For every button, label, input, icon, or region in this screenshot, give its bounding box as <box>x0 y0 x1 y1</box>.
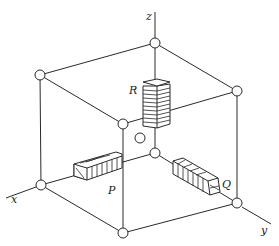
y-axis-label: y <box>260 224 268 237</box>
y-axis <box>242 207 271 224</box>
node-bottom-right <box>232 198 242 208</box>
bar-q-label: Q <box>222 178 231 191</box>
node-top-right <box>232 86 242 96</box>
bar-p-label: P <box>107 184 116 197</box>
node-top-back <box>150 38 160 48</box>
node-top-front <box>118 119 128 129</box>
bar-r <box>143 79 170 128</box>
lattice-diagram: z x y R P Q <box>0 0 279 246</box>
x-axis-label: x <box>11 193 18 206</box>
bar-q <box>173 158 220 195</box>
bar-p <box>74 152 122 180</box>
node-center <box>135 133 145 143</box>
node-bottom-front <box>118 228 128 238</box>
node-bottom-left <box>36 180 46 190</box>
bar-r-label: R <box>128 84 137 97</box>
z-axis-label: z <box>145 10 152 23</box>
node-origin <box>150 148 160 158</box>
axes <box>6 12 271 224</box>
node-top-left <box>35 70 45 80</box>
